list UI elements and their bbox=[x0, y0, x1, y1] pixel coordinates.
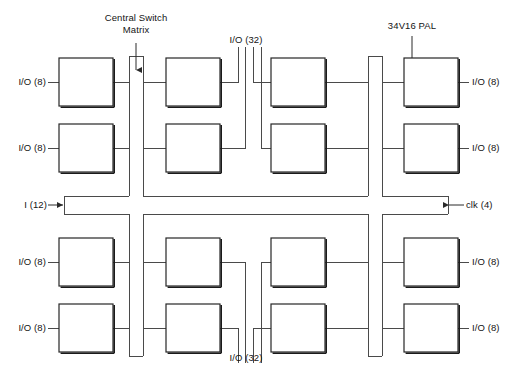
right-port-label-4: I/O (8) bbox=[472, 322, 500, 334]
io32-top-label: I/O (32) bbox=[206, 34, 286, 46]
right-port-label-3: I/O (8) bbox=[472, 256, 500, 268]
io32-bottom-label: I/O (32) bbox=[206, 352, 286, 364]
pal-block-r2c4 bbox=[404, 124, 459, 173]
conn-r2c3-to-io32top-b bbox=[261, 47, 271, 148]
pal-block-r2c2 bbox=[166, 124, 221, 173]
conn-r1c3-to-io32top-a bbox=[253, 47, 271, 82]
conn-r3c3-to-io32bot-b bbox=[261, 262, 271, 363]
left-port-label-4: I/O (8) bbox=[0, 322, 46, 334]
pal-block-r2c1 bbox=[59, 124, 114, 173]
horizontal-bus-seg-2 bbox=[143, 196, 368, 214]
left-vertical-bus-lower bbox=[129, 214, 143, 356]
horizontal-bus-seg-1 bbox=[64, 196, 129, 214]
pal-block-grid bbox=[59, 58, 459, 353]
left-port-label-1: I/O (8) bbox=[0, 76, 46, 88]
pal-block-r4c2 bbox=[166, 304, 221, 353]
pal-block-r1c3 bbox=[271, 58, 326, 107]
horizontal-bus-seg-3 bbox=[382, 196, 448, 214]
left-port-label-2: I/O (8) bbox=[0, 142, 46, 154]
pal-block-r3c2 bbox=[166, 238, 221, 287]
right-vertical-bus-lower bbox=[368, 214, 382, 356]
pal-architecture-diagram: Central Switch Matrix 34V16 PAL I/O (32)… bbox=[0, 0, 512, 390]
central-switch-matrix-line1: Central Switch bbox=[105, 12, 168, 23]
clock-bus-label: clk (4) bbox=[466, 199, 493, 211]
right-port-label-1: I/O (8) bbox=[472, 76, 500, 88]
conn-r2c2-to-io32top-b bbox=[220, 47, 245, 148]
right-vertical-bus-upper bbox=[368, 56, 382, 196]
central-switch-matrix-line2: Matrix bbox=[123, 24, 149, 35]
pal-block-r2c3 bbox=[271, 124, 326, 173]
conn-r3c2-to-io32bot-b bbox=[220, 262, 245, 363]
left-port-label-3: I/O (8) bbox=[0, 256, 46, 268]
pal-block-r4c4 bbox=[404, 304, 459, 353]
input-bus-label: I (12) bbox=[0, 199, 47, 211]
pal-block-r1c2 bbox=[166, 58, 221, 107]
pal-block-r1c1 bbox=[59, 58, 114, 107]
pal-block-r3c1 bbox=[59, 238, 114, 287]
conn-r1c2-to-io32top-a bbox=[220, 47, 238, 82]
pal-block-r4c3 bbox=[271, 304, 326, 353]
central-switch-matrix-label: Central Switch Matrix bbox=[86, 12, 186, 35]
pal-block-r3c3 bbox=[271, 238, 326, 287]
right-port-label-2: I/O (8) bbox=[472, 142, 500, 154]
pal-block-r3c4 bbox=[404, 238, 459, 287]
pal-block-r4c1 bbox=[59, 304, 114, 353]
pal-block-r1c4 bbox=[404, 58, 459, 107]
bus-network bbox=[64, 56, 448, 356]
left-vertical-bus-upper bbox=[129, 56, 143, 196]
pal-part-number-label: 34V16 PAL bbox=[368, 20, 456, 32]
